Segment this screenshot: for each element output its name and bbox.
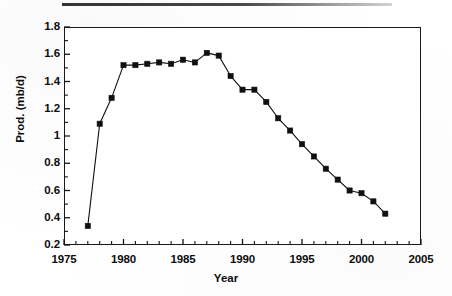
data-point <box>276 116 281 121</box>
y-tick-label: 1.2 <box>20 102 60 114</box>
data-point <box>157 60 162 65</box>
data-point <box>180 57 185 62</box>
x-tick-label: 1990 <box>221 253 265 265</box>
x-tick-label: 2005 <box>399 253 443 265</box>
data-point <box>347 188 352 193</box>
data-point <box>323 166 328 171</box>
y-tick-label: 0.6 <box>20 184 60 196</box>
x-axis-label: Year <box>0 272 452 284</box>
y-tick-label: 1.4 <box>20 75 60 87</box>
y-tick-label: 1.8 <box>20 20 60 32</box>
data-point <box>133 63 138 68</box>
y-tick-label: 0.2 <box>20 238 60 250</box>
data-point <box>240 87 245 92</box>
data-point <box>299 142 304 147</box>
data-point <box>311 154 316 159</box>
data-point <box>371 199 376 204</box>
x-tick-label: 1985 <box>161 253 205 265</box>
y-tick-label: 0.8 <box>20 156 60 168</box>
data-point <box>121 63 126 68</box>
production-line-chart: Prod. (mb/d) Year 0.20.40.60.811.21.41.6… <box>0 0 452 296</box>
data-point <box>228 73 233 78</box>
data-point <box>192 60 197 65</box>
data-point <box>288 128 293 133</box>
data-point <box>252 87 257 92</box>
data-point <box>335 177 340 182</box>
data-point <box>109 95 114 100</box>
data-point <box>359 191 364 196</box>
data-point <box>97 121 102 126</box>
x-tick-label: 1975 <box>42 253 86 265</box>
data-point <box>216 53 221 58</box>
series-layer <box>0 0 452 296</box>
data-point <box>169 61 174 66</box>
data-point <box>264 99 269 104</box>
y-tick-label: 1.6 <box>20 47 60 59</box>
x-tick-label: 1995 <box>280 253 324 265</box>
data-point <box>204 50 209 55</box>
data-point <box>85 223 90 228</box>
data-point <box>383 211 388 216</box>
y-tick-label: 0.4 <box>20 211 60 223</box>
data-point <box>145 61 150 66</box>
x-tick-label: 2000 <box>340 253 384 265</box>
x-tick-label: 1980 <box>102 253 146 265</box>
y-tick-label: 1 <box>20 129 60 141</box>
